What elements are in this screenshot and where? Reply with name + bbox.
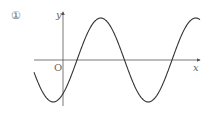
y-axis-label: y — [56, 10, 62, 20]
figure-marker: ① — [11, 11, 21, 21]
sine-graph — [0, 0, 207, 114]
x-axis-label: x — [193, 63, 199, 73]
origin-label: O — [54, 63, 62, 73]
